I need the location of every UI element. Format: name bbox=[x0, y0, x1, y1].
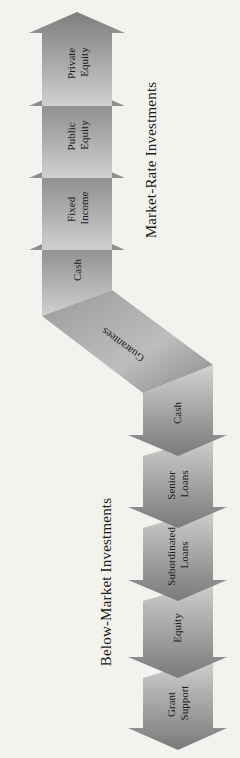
label-public-equity: Public Equity bbox=[65, 120, 90, 151]
label-grant-support: Grant Support bbox=[165, 686, 190, 721]
label-cash-upper: Cash bbox=[71, 259, 83, 282]
market-rate-investments-label: Market-Rate Investments bbox=[143, 82, 159, 239]
investment-continuum-diagram: Private Equity Public Equity Fixed Incom… bbox=[0, 0, 240, 758]
label-senior-loans: Senior Loans bbox=[165, 468, 190, 499]
label-private-equity: Private Equity bbox=[65, 45, 90, 79]
label-equity: Equity bbox=[171, 613, 183, 643]
label-fixed-income: Fixed Income bbox=[65, 191, 90, 224]
label-cash-lower: Cash bbox=[171, 402, 183, 425]
arrow-up-private-equity bbox=[29, 12, 125, 106]
below-market-investments-label: Below-Market Investments bbox=[98, 498, 114, 667]
